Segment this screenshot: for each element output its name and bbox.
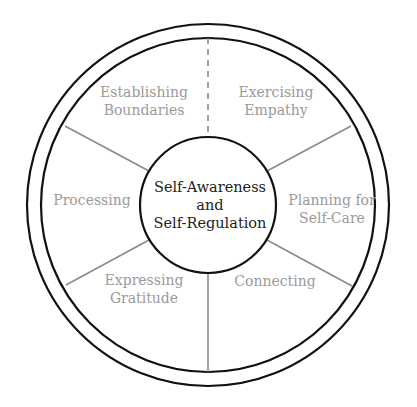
segment-exercising-empathy: Exercising Empathy [238, 83, 313, 119]
center-label-line-1: Self-Awareness [154, 178, 267, 196]
segment-planning-for-self-care: Planning for Self-Care [288, 191, 376, 227]
segment-establishing-boundaries: Establishing Boundaries [100, 83, 188, 119]
segment-label-line: Expressing [105, 271, 184, 289]
segment-label-line: Empathy [238, 101, 313, 119]
segment-connecting: Connecting [234, 272, 315, 290]
segment-label-line: Connecting [234, 272, 315, 290]
segment-label-line: Planning for [288, 191, 376, 209]
spoke-upper-right [267, 126, 351, 171]
center-label: Self-Awareness and Self-Regulation [154, 178, 267, 232]
segment-label-line: Establishing [100, 83, 188, 101]
segment-processing: Processing [53, 191, 131, 209]
segment-label-line: Gratitude [105, 289, 184, 307]
segment-label-line: Boundaries [100, 101, 188, 119]
segment-expressing-gratitude: Expressing Gratitude [105, 271, 184, 307]
segment-label-line: Exercising [238, 83, 313, 101]
center-label-line-2: and [154, 196, 267, 214]
spoke-upper-left [65, 126, 149, 171]
segment-label-line: Self-Care [288, 209, 376, 227]
center-label-line-3: Self-Regulation [154, 214, 267, 232]
segment-label-line: Processing [53, 191, 131, 209]
